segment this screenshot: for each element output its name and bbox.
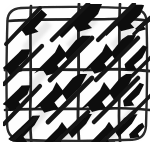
zentangle-tile: Hand-drawn black ink tile showing a wobb… — [0, 0, 153, 145]
tile-content-group — [2, 3, 153, 145]
tile-drawing-canvas — [0, 0, 153, 145]
